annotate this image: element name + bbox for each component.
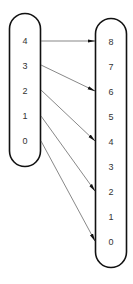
- domain-labels: 4 3 2 1 0: [22, 36, 27, 146]
- codomain-label: 3: [108, 162, 113, 172]
- arrow-2-to-4: [41, 90, 95, 141]
- domain-label: 4: [22, 36, 27, 46]
- arrow-0-to-0: [41, 141, 95, 241]
- domain-label: 0: [22, 136, 27, 146]
- mapping-arrows: [41, 41, 95, 241]
- codomain-label: 7: [108, 62, 113, 72]
- codomain-label: 6: [108, 87, 113, 97]
- domain-label: 3: [22, 61, 27, 71]
- arrow-3-to-6: [41, 65, 95, 91]
- codomain-label: 1: [108, 212, 113, 222]
- codomain-label: 2: [108, 187, 113, 197]
- domain-label: 1: [22, 111, 27, 121]
- codomain-label: 5: [108, 112, 113, 122]
- codomain-labels: 8 7 6 5 4 3 2 1 0: [108, 37, 113, 247]
- arrow-1-to-2: [41, 116, 95, 191]
- mapping-diagram: 4 3 2 1 0 8 7 6 5 4 3 2 1 0: [0, 0, 133, 284]
- domain-label: 2: [22, 86, 27, 96]
- codomain-label: 0: [108, 237, 113, 247]
- codomain-label: 4: [108, 137, 113, 147]
- codomain-label: 8: [108, 37, 113, 47]
